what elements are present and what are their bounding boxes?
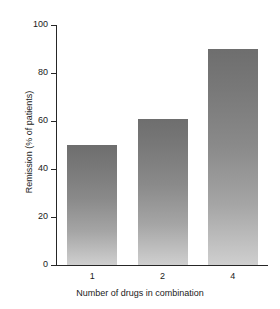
x-axis-title: Number of drugs in combination	[0, 288, 280, 298]
y-axis-tick-mark	[51, 169, 57, 170]
x-axis-tick-label: 2	[133, 271, 193, 281]
bar	[67, 145, 117, 265]
x-axis-tick-label: 4	[203, 271, 263, 281]
y-axis-tick-mark	[51, 121, 57, 122]
bar	[208, 49, 258, 265]
y-axis-line	[56, 25, 57, 266]
y-axis-tick-mark	[51, 217, 57, 218]
bar	[138, 119, 188, 265]
y-axis-title: Remission (% of patients)	[24, 52, 34, 232]
y-axis-tick-mark	[51, 73, 57, 74]
y-axis-tick-mark	[51, 25, 57, 26]
y-axis-tick-label: 100	[8, 20, 48, 29]
bar-chart-figure: 020406080100 124 Number of drugs in comb…	[0, 0, 280, 309]
y-axis-tick-mark	[51, 265, 57, 266]
y-axis-tick-label: 0	[8, 260, 48, 269]
x-axis-line	[56, 265, 268, 266]
x-axis-tick-label: 1	[62, 271, 122, 281]
